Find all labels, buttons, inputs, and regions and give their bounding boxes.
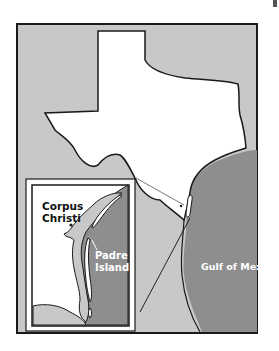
label-padre: Padre [95, 250, 135, 262]
texas-map [0, 0, 279, 351]
label-padre-island: Padre Island [95, 250, 135, 274]
label-corpus: Corpus [42, 200, 102, 212]
label-christi: Christi [42, 212, 102, 224]
label-gulf-of-mexico: Gulf of Mexico [201, 261, 278, 272]
label-corpus-christi: Corpus Christi [42, 200, 102, 224]
label-island: Island [95, 262, 135, 274]
corpus-christi-dot-small [180, 205, 182, 207]
